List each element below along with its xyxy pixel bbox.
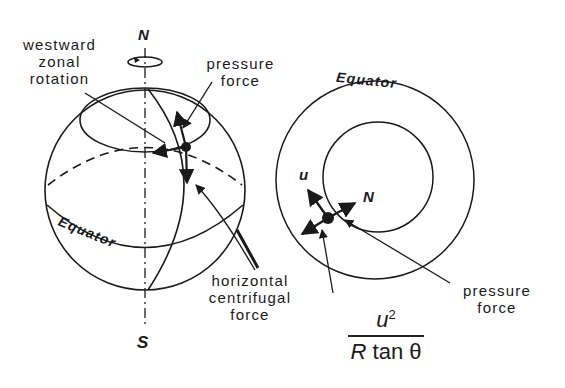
centrifugal-leader-thick: [237, 230, 258, 268]
label-westward-zonal-rotation: westward zonal rotation: [12, 36, 107, 87]
south-label: S: [137, 334, 150, 351]
label-pressure-force: pressure force: [198, 55, 283, 89]
leader-westward: [85, 93, 165, 143]
pressure-force-vector: [177, 112, 186, 147]
n-label: N: [363, 188, 375, 205]
centrifugal-vector: [186, 147, 187, 183]
fraction-bar: [348, 335, 424, 337]
label-polar-pressure-force: pressure force: [452, 282, 542, 316]
centrifugal-formula: u2 R tan θ: [348, 302, 424, 365]
outward-vector: [302, 218, 328, 234]
north-label: N: [138, 26, 150, 43]
leader-centrifugal: [196, 185, 255, 270]
u-label: u: [299, 166, 309, 183]
label-horizontal-centrifugal-force: horizontal centrifugal force: [200, 272, 300, 323]
n-vector: [328, 203, 355, 218]
latitude-ring: [323, 122, 433, 232]
leader-polar-pressure: [345, 220, 450, 283]
leader-formula: [322, 230, 333, 293]
